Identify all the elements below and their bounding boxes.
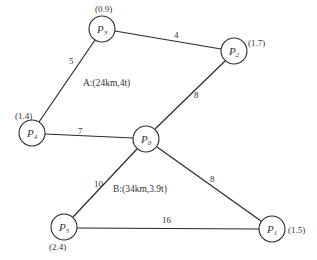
node-p5-demand: (2.4)	[49, 242, 66, 252]
weight-p2-p0: 8	[194, 90, 199, 100]
edge-p0-p5	[73, 149, 137, 217]
node-p3: P3 (0.9)	[89, 4, 115, 42]
edge-p2-p0	[155, 61, 225, 129]
edge-p3-p2	[115, 31, 221, 49]
weight-p5-p1: 16	[162, 215, 172, 225]
route-b-label: B:(34km,3.9t)	[113, 184, 167, 195]
node-p2: P2 (1.7)	[221, 38, 265, 64]
weight-p3-p2: 4	[174, 30, 179, 40]
node-p5: P5 (2.4)	[49, 214, 77, 252]
node-p3-demand: (0.9)	[95, 4, 112, 14]
node-p0: P0	[133, 126, 159, 152]
node-p1-demand: (1.5)	[288, 225, 305, 235]
node-p4-demand: (1.4)	[15, 111, 32, 121]
route-a-label: A:(24km,4t)	[83, 78, 130, 89]
node-p2-demand: (1.7)	[248, 38, 265, 48]
weight-p4-p0: 7	[78, 126, 83, 136]
weight-p0-p5: 10	[94, 179, 104, 189]
edge-p0-p1	[157, 147, 261, 221]
weight-p3-p4: 5	[69, 56, 74, 66]
edge-p5-p1	[77, 228, 259, 229]
node-p4: P4 (1.4)	[15, 111, 45, 146]
weight-p0-p1: 8	[210, 174, 215, 184]
edge-p4-p0	[45, 134, 133, 138]
node-p1: P1 (1.5)	[259, 216, 305, 242]
route-network-diagram: 4 5 8 7 10 8 16 A:(24km,4t) B:(34km,3.9t…	[0, 0, 317, 260]
